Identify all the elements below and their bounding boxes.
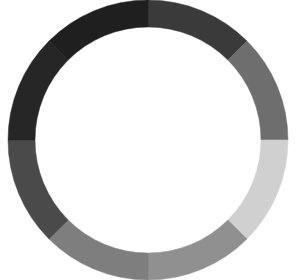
donut-chart [0, 0, 296, 280]
chart-background [0, 0, 296, 280]
chart-canvas [0, 0, 296, 280]
